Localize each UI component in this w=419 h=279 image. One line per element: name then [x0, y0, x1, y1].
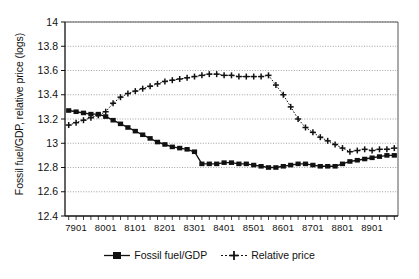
y-axis-tick-label: 12.4 [38, 210, 59, 222]
series-line-relative-price [69, 74, 395, 152]
data-point-square [266, 165, 271, 170]
data-point-square [133, 129, 138, 134]
y-axis-tick-label: 13.4 [38, 88, 59, 100]
data-point-square [303, 162, 308, 167]
data-point-square [392, 153, 397, 158]
legend-label-relative-price: Relative price [251, 249, 315, 261]
data-point-square [81, 111, 86, 116]
data-point-square [111, 118, 116, 123]
data-point-square [340, 162, 345, 167]
data-point-square [370, 156, 375, 161]
data-point-square [377, 154, 382, 159]
y-axis-tick-label: 14 [46, 16, 58, 28]
data-point-square [148, 136, 153, 141]
plus-marker-icon [221, 250, 247, 261]
data-point-square [222, 160, 227, 165]
legend-item-relative-price[interactable]: Relative price [221, 249, 315, 261]
y-axis-tick-label: 13.8 [38, 40, 59, 52]
data-point-square [325, 164, 330, 169]
y-axis-tick-label: 13 [46, 137, 58, 149]
data-point-square [125, 125, 130, 130]
data-point-square [273, 165, 278, 170]
x-axis-tick-label: 8901 [361, 222, 383, 233]
data-point-square [170, 145, 175, 150]
x-axis-tick-label: 8501 [243, 222, 265, 233]
data-point-square [185, 147, 190, 152]
legend-label-fossil-fuel-gdp: Fossil fuel/GDP [134, 249, 207, 261]
data-point-square [251, 163, 256, 168]
data-point-square [362, 157, 367, 162]
x-axis-tick-label: 8301 [184, 222, 206, 233]
data-point-square [155, 140, 160, 145]
x-axis-tick-label: 8001 [95, 222, 117, 233]
x-axis-tick-label: 7901 [65, 222, 87, 233]
data-point-square [281, 164, 286, 169]
data-point-square [162, 142, 167, 147]
data-point-square [244, 162, 249, 167]
data-point-square [199, 162, 204, 167]
chart-legend: Fossil fuel/GDP Relative price [0, 249, 419, 261]
data-point-square [296, 162, 301, 167]
x-axis-tick-label: 8401 [213, 222, 235, 233]
data-point-square [103, 114, 108, 119]
data-point-square [355, 158, 360, 163]
data-point-square [236, 162, 241, 167]
x-axis-tick-label: 8701 [302, 222, 324, 233]
data-point-square [229, 160, 234, 165]
data-point-square [333, 164, 338, 169]
data-point-square [310, 163, 315, 168]
data-point-square [118, 122, 123, 127]
data-point-square [192, 149, 197, 154]
y-axis-tick-label: 12.8 [38, 161, 59, 173]
data-point-square [214, 162, 219, 167]
data-point-square [347, 159, 352, 164]
x-axis-tick-label: 8101 [124, 222, 146, 233]
y-axis-tick-label: 12.6 [38, 185, 59, 197]
plot-area: 12.412.612.81313.213.413.613.81479018001… [0, 0, 419, 279]
x-axis-tick-label: 8601 [272, 222, 294, 233]
chart-figure: Fossil fuel/GDP, relative price (logs) 1… [0, 0, 419, 279]
series-markers-relative-price [66, 71, 398, 155]
data-point-square [177, 146, 182, 151]
y-axis-tick-label: 13.2 [38, 113, 59, 125]
x-axis-tick-label: 8201 [154, 222, 176, 233]
x-axis-tick-label: 8801 [332, 222, 354, 233]
square-marker-icon [104, 250, 130, 261]
data-point-square [74, 109, 79, 114]
series-markers-fossil-fuel-gdp [66, 108, 397, 170]
data-point-square [288, 163, 293, 168]
data-point-square [318, 164, 323, 169]
data-point-square [140, 132, 145, 137]
data-point-square [384, 153, 389, 158]
data-point-square [259, 164, 264, 169]
data-point-square [207, 162, 212, 167]
y-axis-tick-label: 13.6 [38, 64, 59, 76]
data-point-square [66, 108, 71, 113]
legend-item-fossil-fuel-gdp[interactable]: Fossil fuel/GDP [104, 249, 207, 261]
